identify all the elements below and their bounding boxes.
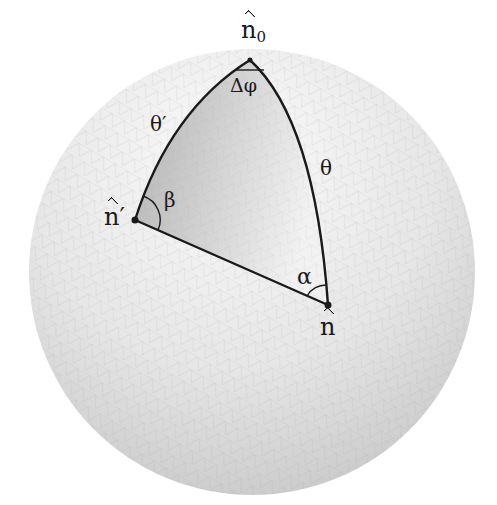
label-n-prime: n′: [104, 205, 125, 229]
label-n-prime-base: n: [104, 205, 119, 229]
label-theta-prime: θ′: [150, 114, 167, 134]
label-n-base: n: [320, 315, 335, 339]
label-alpha: α: [297, 266, 312, 288]
label-theta: θ: [320, 158, 332, 178]
label-n0-base: n: [241, 18, 256, 42]
label-beta: β: [164, 190, 176, 210]
label-n-prime-mark: ′: [119, 203, 124, 231]
vertex-n-prime-dot: [132, 217, 139, 224]
label-n0-sub: 0: [256, 28, 266, 46]
label-delta-phi: Δφ: [230, 76, 257, 95]
label-n0: n0: [241, 18, 266, 42]
label-n: n: [320, 315, 335, 339]
spherical-triangle-diagram: n0 n′ n θ′ θ Δφ β α: [0, 0, 497, 505]
vertex-n0-dot: [248, 58, 253, 63]
